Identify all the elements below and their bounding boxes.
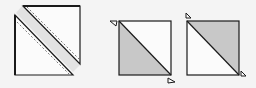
step-unit-a [110,21,175,83]
quilt-diagram [0,0,256,88]
step-unit-b [186,13,246,76]
step-sew-cut [15,6,80,75]
